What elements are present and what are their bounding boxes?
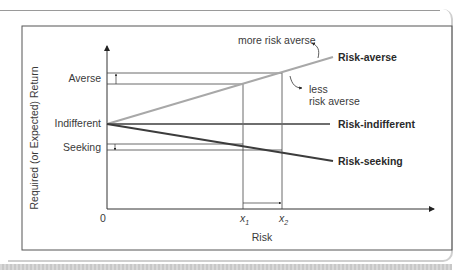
y-label-averse: Averse (69, 72, 102, 84)
x-axis-label: Risk (252, 231, 273, 243)
more-risk-averse-label: more risk averse (238, 34, 316, 46)
risk-averse-lower-label: risk averse (309, 95, 360, 107)
less-risk-averse-arrow (290, 76, 302, 88)
origin-label: 0 (100, 212, 106, 224)
risk-return-diagram: Required (or Expected) Return Averse Ind… (0, 0, 461, 270)
risk-averse-line (107, 57, 333, 124)
risk-averse-label: Risk-averse (338, 51, 397, 63)
y-label-seeking: Seeking (63, 141, 101, 153)
risk-indifferent-label: Risk-indifferent (338, 118, 416, 130)
less-label: less (309, 83, 328, 95)
risk-seeking-label: Risk-seeking (338, 155, 403, 167)
x2-label: x2 (278, 212, 288, 226)
x1-label: x1 (239, 212, 249, 226)
y-label-indifferent: Indifferent (54, 117, 101, 129)
risk-seeking-line (107, 124, 333, 161)
y-axis-label: Required (or Expected) Return (28, 66, 40, 209)
